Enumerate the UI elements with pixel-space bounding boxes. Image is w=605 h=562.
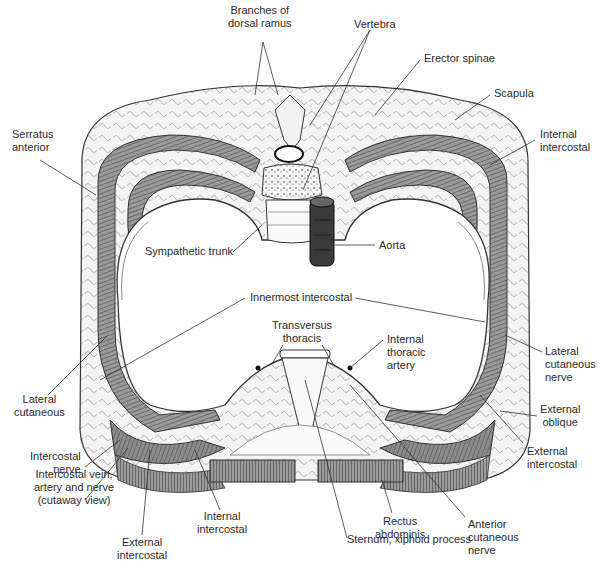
label-aorta: Aorta [379, 239, 405, 252]
label-intercostal-vein-artery-nerve: Intercostal vein, artery and nerve (cuta… [34, 468, 114, 507]
label-sympathetic-trunk: Sympathetic trunk [145, 245, 233, 258]
label-anterior-cutaneous-nerve: Anterior cutaneous nerve [468, 518, 519, 557]
label-branches-dorsal-ramus: Branches of dorsal ramus [228, 4, 292, 30]
label-lateral-cutaneous: Lateral cutaneous [14, 393, 65, 419]
label-sternum-xiphoid-process: Sternum, xiphoid process [347, 533, 471, 546]
label-innermost-intercostal: Innermost intercostal [250, 291, 352, 304]
label-internal-intercostal-top: Internal intercostal [540, 128, 590, 154]
label-external-intercostal-left: External intercostal [117, 536, 167, 562]
label-serratus-anterior: Serratus anterior [12, 128, 54, 154]
label-lateral-cutaneous-nerve: Lateral cutaneous nerve [545, 345, 596, 384]
label-internal-thoracic-artery: Internal thoracic artery [387, 333, 426, 372]
aorta [310, 197, 334, 266]
label-vertebra: Vertebra [354, 18, 396, 31]
label-external-oblique: External oblique [540, 403, 580, 429]
label-internal-intercostal-bottom: Internal intercostal [197, 510, 247, 536]
label-transversus-thoracis: Transversus thoracis [272, 319, 332, 345]
label-erector-spinae: Erector spinae [424, 52, 495, 65]
label-scapula: Scapula [494, 87, 534, 100]
label-external-intercostal-right: External intercostal [527, 445, 577, 471]
